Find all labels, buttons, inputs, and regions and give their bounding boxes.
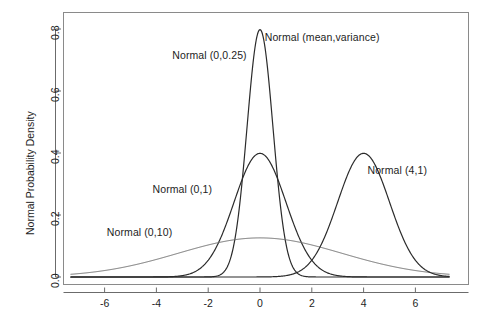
curve-annotation: Normal (4,1) <box>367 164 427 176</box>
plot-canvas <box>0 0 485 322</box>
y-tick-label: 0.6 <box>49 80 61 102</box>
x-tick-label: 0 <box>246 297 274 309</box>
curve-annotation: Normal (mean,variance) <box>265 31 380 43</box>
x-tick-label: 6 <box>401 297 429 309</box>
y-tick-label: 0.2 <box>49 204 61 226</box>
normal-distribution-chart: Normal Probability Density -6-4-20246 0.… <box>0 0 485 322</box>
y-tick-label: 0.8 <box>49 18 61 40</box>
curve-annotation: Normal (0,0.25) <box>172 49 246 61</box>
density-curve <box>71 238 449 274</box>
x-axis-ticks <box>105 288 416 293</box>
y-tick-label: 0.0 <box>49 266 61 288</box>
x-tick-label: -4 <box>142 297 170 309</box>
x-tick-label: -2 <box>194 297 222 309</box>
density-curves <box>71 30 449 277</box>
curve-annotation: Normal (0,1) <box>153 183 213 195</box>
y-axis-title: Normal Probability Density <box>24 111 36 235</box>
x-tick-label: 2 <box>298 297 326 309</box>
y-tick-label: 0.4 <box>49 142 61 164</box>
x-tick-label: 4 <box>350 297 378 309</box>
x-tick-label: -6 <box>91 297 119 309</box>
curve-annotation: Normal (0,10) <box>107 226 172 238</box>
